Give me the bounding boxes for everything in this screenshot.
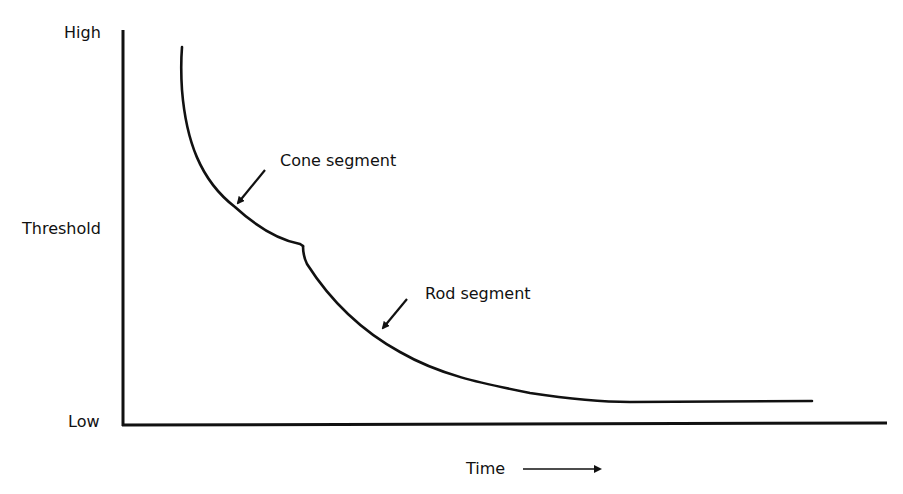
x-axis-label: Time [466,459,505,478]
y-label-low: Low [68,412,100,431]
rod-segment-annotation: Rod segment [425,284,531,303]
y-label-high: High [64,23,101,42]
cone-segment-curve [181,47,303,246]
y-label-threshold: Threshold [22,219,101,238]
rod-arrow-icon [383,299,407,328]
cone-arrow-icon [238,170,265,203]
x-axis [122,423,887,425]
chart-canvas [0,0,903,494]
cone-segment-annotation: Cone segment [280,151,396,170]
rod-segment-curve [303,246,812,402]
